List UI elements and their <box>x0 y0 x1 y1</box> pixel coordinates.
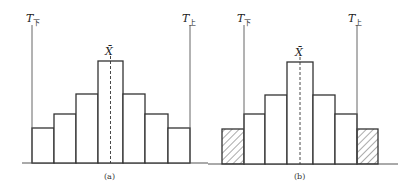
caption-a: (a) <box>104 172 115 181</box>
bar <box>313 95 335 164</box>
panel-b: T下 T上 X̄ (b) <box>208 12 398 181</box>
bar-hatched-out-of-spec <box>357 129 378 164</box>
bar <box>335 114 357 164</box>
bar-hatched-out-of-spec <box>222 129 244 164</box>
bar <box>244 114 265 164</box>
panel-a: T下 T上 X̄ (a) <box>22 12 208 181</box>
bar <box>123 94 145 163</box>
bar <box>145 114 168 163</box>
bar <box>168 128 190 163</box>
bar <box>54 114 76 163</box>
bar <box>32 128 54 163</box>
upper-limit-label-a: T上 <box>182 12 196 27</box>
histogram-diagram: T下 T上 X̄ (a) T下 T上 X̄ (b) <box>0 0 418 189</box>
mean-label-a: X̄ <box>104 45 114 58</box>
histogram-bars-a <box>32 61 190 163</box>
bar <box>76 94 98 163</box>
bar <box>265 95 287 164</box>
caption-b: (b) <box>294 172 305 181</box>
mean-label-b: X̄ <box>294 46 304 59</box>
lower-limit-label-b: T下 <box>237 12 251 27</box>
upper-limit-label-b: T上 <box>348 12 362 27</box>
lower-limit-label-a: T下 <box>26 12 40 27</box>
